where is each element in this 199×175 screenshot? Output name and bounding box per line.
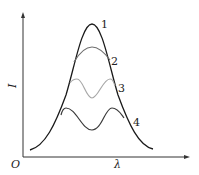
y-axis-label: I: [6, 83, 19, 89]
curve-1: [30, 24, 153, 150]
curve-4: [61, 108, 124, 130]
curve-label-2: 2: [111, 55, 118, 68]
x-axis-arrow-icon: [184, 155, 190, 159]
y-axis-arrow-icon: [21, 12, 25, 18]
curve-label-3: 3: [118, 82, 125, 95]
origin-label: O: [11, 158, 20, 171]
curve-3: [70, 79, 115, 98]
curve-label-4: 4: [133, 116, 140, 129]
spectral-line-diagram: 1 2 3 4 O λ I: [0, 0, 199, 175]
curve-2: [74, 47, 110, 62]
curve-label-1: 1: [101, 18, 108, 31]
x-axis-label: λ: [113, 158, 121, 171]
